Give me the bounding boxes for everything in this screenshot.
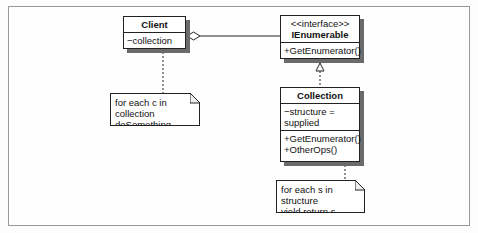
client-note[interactable]: for each c in collection doSomething	[110, 93, 200, 126]
collection-note[interactable]: for each s in structure yield return s	[276, 180, 365, 213]
class-collection-attribute: −structure = supplied	[281, 104, 359, 131]
class-ienumerable-operation: +GetEnumerator()	[281, 43, 359, 58]
class-ienumerable-name: IEnumerable	[284, 29, 356, 40]
client-note-line: for each c in collection	[115, 97, 195, 119]
realization-triangle-icon	[316, 63, 324, 71]
class-ienumerable-header: <<interface>> IEnumerable	[281, 16, 359, 43]
class-client-attribute: −collection	[124, 33, 185, 48]
note-fold-icon	[190, 93, 201, 104]
collection-note-line: for each s in structure	[281, 184, 360, 206]
class-collection[interactable]: Collection −structure = supplied +GetEnu…	[280, 87, 360, 162]
class-collection-operation: +OtherOps()	[284, 144, 356, 155]
connector-layer	[0, 0, 478, 233]
class-collection-operation: +GetEnumerator()	[284, 133, 356, 144]
class-collection-operations: +GetEnumerator() +OtherOps()	[281, 131, 359, 161]
class-client[interactable]: Client −collection	[123, 16, 186, 49]
class-ienumerable[interactable]: <<interface>> IEnumerable +GetEnumerator…	[280, 15, 360, 59]
note-fold-icon	[355, 180, 366, 191]
class-collection-name: Collection	[281, 88, 359, 104]
class-client-name: Client	[124, 17, 185, 33]
class-ienumerable-stereotype: <<interface>>	[284, 18, 356, 29]
aggregation-diamond-icon	[187, 32, 200, 40]
